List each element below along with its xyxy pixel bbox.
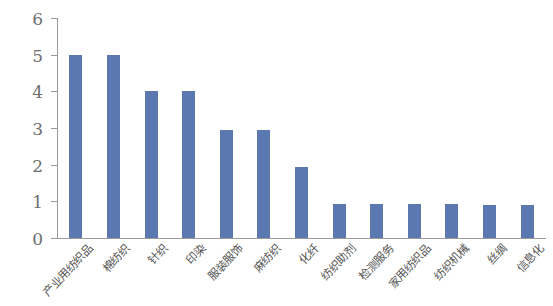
x-axis-label: 麻纺织 — [251, 242, 283, 275]
y-tick-label: 2 — [32, 157, 43, 174]
x-axis-label: 丝绸 — [485, 242, 509, 267]
bar-slot — [95, 17, 133, 238]
x-axis-label: 服装服饰 — [206, 242, 245, 283]
y-tick-label: 5 — [32, 47, 43, 64]
bar[interactable] — [333, 204, 346, 238]
x-axis-labels: 产业用纺织品棉纺织针织印染服装服饰麻纺织化纤纺织助剂检测服务家用纺织品纺织机械丝… — [57, 240, 546, 306]
bar[interactable] — [445, 204, 458, 238]
x-axis-label: 印染 — [184, 242, 208, 267]
bar[interactable] — [483, 205, 496, 238]
bar[interactable] — [69, 55, 82, 238]
bar-slot — [283, 17, 321, 238]
bar-slot — [132, 17, 170, 238]
x-axis-label: 信息化 — [515, 242, 547, 275]
bars-layer — [57, 18, 546, 239]
bar[interactable] — [220, 130, 233, 238]
bar-slot — [57, 17, 95, 238]
bar[interactable] — [295, 167, 308, 239]
bar-slot — [396, 17, 434, 238]
bar-slot — [471, 17, 509, 238]
y-tick-label: 0 — [32, 230, 43, 247]
bar[interactable] — [370, 204, 383, 238]
y-tick-label: 4 — [32, 83, 43, 100]
bar[interactable] — [521, 205, 534, 238]
bar[interactable] — [182, 91, 195, 238]
x-axis-label: 纺织助剂 — [319, 242, 358, 283]
x-axis-label: 产业用纺织品 — [41, 242, 95, 299]
bar-slot — [358, 17, 396, 238]
bar[interactable] — [257, 130, 270, 238]
y-tick-label: 1 — [32, 193, 43, 210]
bar[interactable] — [107, 55, 120, 238]
bar-chart: 0123456 产业用纺织品棉纺织针织印染服装服饰麻纺织化纤纺织助剂检测服务家用… — [0, 0, 553, 306]
bar-slot — [170, 17, 208, 238]
bar[interactable] — [145, 91, 158, 238]
x-axis-label: 纺织机械 — [432, 242, 471, 283]
x-axis-label: 针织 — [146, 242, 170, 267]
bar-slot — [433, 17, 471, 238]
bar-slot — [245, 17, 283, 238]
y-tick-label: 3 — [32, 120, 43, 137]
x-axis-label: 棉纺织 — [101, 242, 133, 275]
x-axis-label: 化纤 — [296, 242, 320, 267]
bar-slot — [207, 17, 245, 238]
bar-slot — [508, 17, 546, 238]
bar[interactable] — [408, 204, 421, 238]
bar-slot — [320, 17, 358, 238]
y-tick-label: 6 — [32, 10, 43, 27]
